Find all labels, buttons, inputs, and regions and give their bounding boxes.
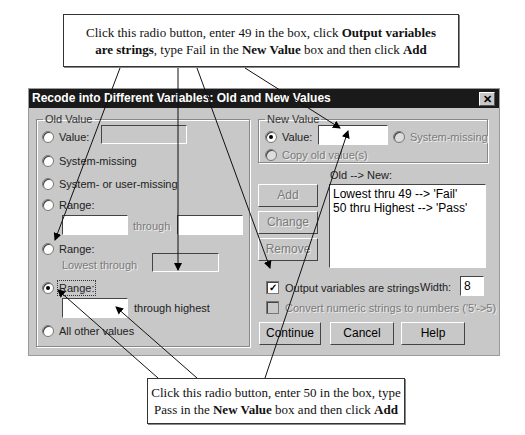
width-input[interactable]: 8 [460,276,484,296]
help-button[interactable]: Help [401,322,465,345]
old-value-radio-row[interactable]: Value: [42,131,89,143]
list-item[interactable]: 50 thru Highest --> 'Pass' [333,201,482,215]
system-user-missing-radio[interactable] [42,178,54,190]
output-strings-label: Output variables are strings [285,282,420,294]
mapping-label-row: Old --> New: [330,169,392,181]
range-highest-label: Range: [59,282,94,294]
list-item[interactable]: Lowest thru 49 --> 'Fail' [333,187,482,201]
callout-text: , type Fail in the [154,42,242,57]
new-value-input[interactable] [318,125,388,145]
old-value-label: Value: [59,131,89,143]
range-lowest-label: Range: [59,243,94,255]
callout-top-line1: Click this radio button, enter 49 in the… [64,24,458,41]
mapping-label: Old --> New: [330,169,392,181]
range-lowest-radio-row[interactable]: Range: [42,243,94,255]
add-button[interactable]: Add [258,184,318,207]
through-highest-label: through highest [134,302,210,314]
callout-text: box and then click [272,402,374,417]
convert-numeric-label: Convert numeric strings to numbers ('5'-… [285,302,496,314]
range-radio[interactable] [42,199,54,211]
new-value-radio-row[interactable]: Value: [265,131,312,143]
through-highest-input[interactable] [62,298,128,318]
all-other-label: All other values [59,325,134,337]
lowest-through-input[interactable] [152,253,219,272]
callout-text: Pass in the [154,402,213,417]
old-value-input[interactable] [101,125,187,144]
callout-bold: Add [374,402,398,417]
range-lowest-radio[interactable] [42,243,54,255]
range-from-input[interactable] [62,215,128,235]
callout-bold: New Value [213,402,272,417]
range-to-input[interactable] [177,215,243,235]
system-missing-radio-row[interactable]: System-missing [42,155,137,167]
system-user-missing-label: System- or user-missing [59,178,178,190]
lowest-through-label-row: Lowest through [62,259,137,271]
callout-bold: Output variables [342,25,436,40]
callout-text: Click this radio button, enter 49 in the… [86,25,342,40]
new-value-legend: New Value [265,113,321,125]
callout-top-line2: are strings, type Fail in the New Value … [64,41,458,58]
dialog-titlebar[interactable]: Recode into Different Variables: Old and… [29,89,499,108]
callout-bold: Add [403,42,427,57]
range-radio-row[interactable]: Range: [42,199,94,211]
old-value-radio[interactable] [42,131,54,143]
all-other-radio[interactable] [42,325,54,337]
dialog-title: Recode into Different Variables: Old and… [32,91,331,105]
continue-button[interactable]: Continue [259,322,321,345]
copy-old-radio[interactable] [265,149,277,161]
convert-numeric-checkbox[interactable] [266,301,279,314]
new-system-missing-radio-row[interactable]: System-missing [393,131,488,143]
output-strings-checkbox[interactable]: ✓ [266,281,279,294]
new-system-missing-radio[interactable] [393,131,405,143]
copy-old-label: Copy old value(s) [282,149,368,161]
callout-bold: New Value [242,42,301,57]
width-label-row: Width: [420,281,451,293]
system-user-missing-radio-row[interactable]: System- or user-missing [42,178,178,190]
instruction-callout-bottom: Click this radio button, enter 50 in the… [147,378,405,424]
new-system-missing-label: System-missing [410,131,488,143]
old-value-legend: Old Value [43,113,95,125]
through-highest-label-row: through highest [134,302,210,314]
callout-bottom-line1: Click this radio button, enter 50 in the… [148,384,404,401]
callout-bottom-line2: Pass in the New Value box and then click… [148,401,404,418]
copy-old-radio-row[interactable]: Copy old value(s) [265,149,368,161]
system-missing-radio[interactable] [42,155,54,167]
range-label: Range: [59,199,94,211]
output-strings-row[interactable]: ✓ Output variables are strings [266,281,420,294]
cancel-button[interactable]: Cancel [330,322,394,345]
width-label: Width: [420,281,451,293]
mapping-list[interactable]: Lowest thru 49 --> 'Fail' 50 thru Highes… [329,184,486,268]
all-other-radio-row[interactable]: All other values [42,325,134,337]
callout-bold: are strings [95,42,154,57]
through-label-row: through [133,220,170,232]
remove-button[interactable]: Remove [258,238,318,261]
new-value-label: Value: [282,131,312,143]
callout-text: box and then click [301,42,403,57]
new-value-radio[interactable] [265,131,277,143]
lowest-through-label: Lowest through [62,259,137,271]
range-highest-radio-row[interactable]: Range: [42,282,94,294]
range-highest-radio[interactable] [42,282,54,294]
system-missing-label: System-missing [59,155,137,167]
convert-numeric-row[interactable]: Convert numeric strings to numbers ('5'-… [266,301,496,314]
recode-dialog: Recode into Different Variables: Old and… [28,88,500,356]
instruction-callout-top: Click this radio button, enter 49 in the… [63,14,459,67]
through-label: through [133,220,170,232]
close-icon[interactable]: ✕ [479,92,495,106]
change-button[interactable]: Change [258,211,318,234]
